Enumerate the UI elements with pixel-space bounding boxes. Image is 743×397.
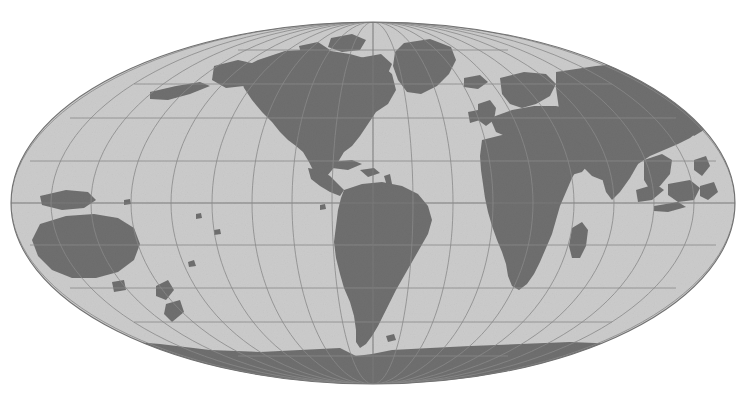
world-map-figure: World Map Mollweide 0 0 (0, 0, 743, 397)
world-map-canvas (0, 0, 743, 397)
